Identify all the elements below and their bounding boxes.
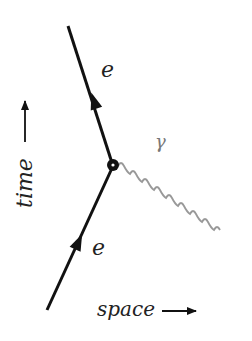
photon-line (118, 163, 220, 230)
incoming-electron-label: e (92, 235, 105, 260)
outgoing-electron-label: e (101, 57, 114, 82)
interaction-vertex (107, 159, 119, 171)
photon-label: γ (155, 131, 166, 152)
outgoing-electron-arrow-icon (86, 91, 103, 111)
feynman-diagram: e e γ time space (0, 0, 252, 341)
time-axis-label: time (12, 158, 37, 208)
space-axis-label: space (97, 297, 155, 321)
incoming-electron-arrow-icon (70, 231, 88, 251)
outgoing-electron-line (68, 26, 113, 166)
